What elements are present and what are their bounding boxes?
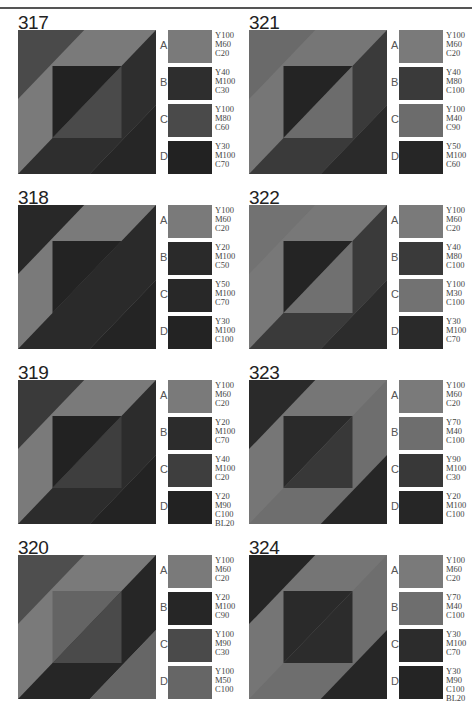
swatch-label: C: [160, 288, 168, 300]
color-swatch: [168, 491, 212, 524]
swatch-label: D: [160, 325, 168, 337]
cmyk-values: Y90 M100 C30: [446, 455, 466, 482]
swatch-label: B: [391, 601, 398, 613]
cmyk-values: Y100 M60 C20: [215, 206, 234, 233]
color-swatch: [168, 666, 212, 699]
swatch-row-d: DY30 M100 C70: [391, 316, 472, 349]
color-swatch: [399, 491, 443, 524]
swatch-row-b: BY40 M80 C100: [391, 242, 472, 275]
cmyk-values: Y100 M30 C100: [446, 280, 465, 307]
color-scheme-panel-319: 319 AY100 M60 C20BY20 M100 C70CY40 M100 …: [18, 358, 254, 533]
cmyk-values: Y100 M60 C20: [446, 206, 465, 233]
color-scheme-panel-317: 317 AY100 M60 C20BY40 M100 C30CY100 M80 …: [18, 8, 254, 183]
swatch-label: D: [391, 500, 399, 512]
swatch-label: A: [160, 389, 167, 401]
swatch-label: C: [160, 113, 168, 125]
color-swatch: [399, 666, 443, 699]
cmyk-values: Y100 M60 C20: [446, 31, 465, 58]
color-swatch: [399, 30, 443, 63]
swatch-row-c: CY100 M40 C90: [391, 104, 472, 137]
color-swatch: [399, 629, 443, 662]
swatch-label: B: [160, 76, 167, 88]
swatch-label: B: [160, 426, 167, 438]
swatch-row-d: DY20 M100 C100: [391, 491, 472, 524]
cmyk-values: Y20 M100 C90: [215, 593, 235, 620]
swatch-row-c: CY100 M30 C100: [391, 279, 472, 312]
cmyk-values: Y50 M100 C60: [446, 142, 466, 169]
swatch-label: B: [160, 251, 167, 263]
color-swatch: [399, 205, 443, 238]
swatch-row-a: AY100 M60 C20: [391, 555, 472, 588]
color-swatch: [168, 592, 212, 625]
swatch-label: C: [391, 288, 399, 300]
color-swatch: [168, 380, 212, 413]
cmyk-values: Y100 M60 C20: [446, 381, 465, 408]
color-swatch: [399, 141, 443, 174]
color-swatch: [168, 316, 212, 349]
color-swatch: [168, 141, 212, 174]
swatch-row-b: BY20 M100 C70: [160, 417, 260, 450]
color-swatch: [168, 454, 212, 487]
cmyk-values: Y30 M100 C70: [446, 630, 466, 657]
cmyk-values: Y100 M60 C20: [215, 381, 234, 408]
cmyk-values: Y30 M100 C100: [215, 317, 235, 344]
swatch-row-c: CY100 M80 C60: [160, 104, 260, 137]
color-swatch: [399, 316, 443, 349]
color-swatch: [399, 104, 443, 137]
cmyk-values: Y30 M100 C70: [215, 142, 235, 169]
swatch-row-b: BY40 M80 C100: [391, 67, 472, 100]
swatch-label: B: [160, 601, 167, 613]
swatch-label: A: [391, 39, 398, 51]
swatch-row-b: BY70 M40 C100: [391, 417, 472, 450]
swatch-row-d: DY30 M90 C100 BL20: [391, 666, 472, 699]
swatch-label: C: [160, 463, 168, 475]
cmyk-values: Y30 M100 C70: [446, 317, 466, 344]
color-swatch: [168, 279, 212, 312]
pattern-illustration: [18, 30, 156, 174]
swatch-label: A: [391, 214, 398, 226]
swatch-label: C: [391, 113, 399, 125]
swatch-label: C: [391, 638, 399, 650]
swatch-label: A: [391, 564, 398, 576]
cmyk-values: Y40 M80 C100: [446, 243, 464, 270]
pattern-illustration: [18, 380, 156, 524]
swatch-row-a: AY100 M60 C20: [160, 30, 260, 63]
pattern-illustration: [249, 555, 387, 699]
pattern-illustration: [18, 555, 156, 699]
swatch-row-c: CY40 M100 C20: [160, 454, 260, 487]
swatch-row-b: BY70 M40 C100: [391, 592, 472, 625]
swatch-label: A: [391, 389, 398, 401]
swatch-row-d: DY100 M50 C100: [160, 666, 260, 699]
cmyk-values: Y30 M90 C100 BL20: [446, 667, 465, 703]
swatch-row-a: AY100 M60 C20: [391, 380, 472, 413]
swatch-label: B: [391, 251, 398, 263]
swatch-row-a: AY100 M60 C20: [391, 205, 472, 238]
cmyk-values: Y40 M80 C100: [446, 68, 464, 95]
cmyk-values: Y100 M80 C60: [215, 105, 234, 132]
cmyk-values: Y100 M40 C90: [446, 105, 465, 132]
color-swatch: [168, 30, 212, 63]
color-swatch: [399, 555, 443, 588]
color-swatch: [399, 454, 443, 487]
cmyk-values: Y20 M100 C100: [446, 492, 466, 519]
cmyk-values: Y20 M100 C50: [215, 243, 235, 270]
cmyk-values: Y100 M60 C20: [446, 556, 465, 583]
swatch-label: B: [391, 426, 398, 438]
color-swatch: [399, 380, 443, 413]
color-swatch: [399, 592, 443, 625]
color-scheme-panel-324: 324 AY100 M60 C20BY70 M40 C100CY30 M100 …: [249, 533, 472, 708]
swatch-row-c: CY90 M100 C30: [391, 454, 472, 487]
swatch-row-d: DY30 M100 C70: [160, 141, 260, 174]
swatch-row-b: BY20 M100 C50: [160, 242, 260, 275]
pattern-illustration: [249, 30, 387, 174]
cmyk-values: Y50 M100 C70: [215, 280, 235, 307]
swatch-row-d: DY50 M100 C60: [391, 141, 472, 174]
color-scheme-panel-323: 323 AY100 M60 C20BY70 M40 C100CY90 M100 …: [249, 358, 472, 533]
cmyk-values: Y100 M60 C20: [215, 556, 234, 583]
swatch-row-b: BY40 M100 C30: [160, 67, 260, 100]
cmyk-values: Y70 M40 C100: [446, 418, 464, 445]
pattern-illustration: [18, 205, 156, 349]
swatch-label: B: [391, 76, 398, 88]
swatch-label: D: [391, 150, 399, 162]
swatch-row-a: AY100 M60 C20: [160, 205, 260, 238]
